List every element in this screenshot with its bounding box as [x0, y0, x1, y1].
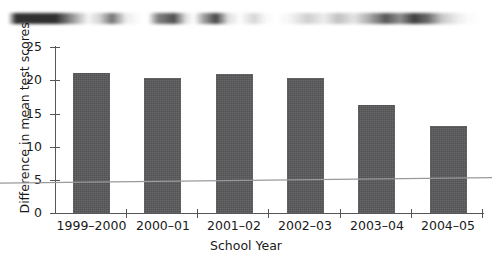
x-category-label-2: 2000–01	[128, 219, 198, 233]
y-tick-3	[50, 114, 60, 115]
bar-1999-2000	[73, 73, 110, 213]
y-tick-label-1: 5	[14, 174, 42, 187]
x-category-label-5: 2003–04	[342, 219, 412, 233]
y-tick-label-2: 10	[14, 141, 42, 154]
x-category-label-1: 1999–2000	[55, 219, 128, 233]
bar-chart-figure: Difference in mean test scores 0 5 10 15…	[0, 0, 492, 263]
y-tick-label-3: 15	[14, 108, 42, 121]
x-category-label-6: 2004–05	[413, 219, 483, 233]
y-tick-5	[50, 47, 60, 48]
x-tick-5	[411, 209, 412, 218]
y-tick-0	[50, 213, 60, 214]
x-tick-4	[340, 209, 341, 218]
y-tick-1	[50, 180, 60, 181]
x-tick-3	[268, 209, 269, 218]
y-axis-title: Difference in mean test scores	[17, 34, 32, 214]
y-tick-label-4: 20	[14, 74, 42, 87]
bar-2002-03	[287, 78, 324, 213]
bar-2001-02	[216, 74, 253, 213]
bar-2004-05	[430, 126, 467, 213]
scan-smudge-artifact	[8, 13, 484, 24]
y-axis-line	[55, 46, 56, 214]
y-tick-4	[50, 80, 60, 81]
y-tick-2	[50, 147, 60, 148]
x-tick-1	[126, 209, 127, 218]
x-tick-2	[197, 209, 198, 218]
x-category-label-3: 2001–02	[199, 219, 269, 233]
x-category-label-4: 2002–03	[270, 219, 340, 233]
x-axis-title: School Year	[0, 238, 492, 253]
y-tick-label-5: 25	[14, 41, 42, 54]
y-tick-label-0: 0	[14, 207, 42, 220]
x-axis-line	[55, 213, 484, 214]
bar-2000-01	[144, 78, 181, 213]
x-tick-6	[482, 209, 483, 218]
bar-2003-04	[358, 105, 395, 213]
